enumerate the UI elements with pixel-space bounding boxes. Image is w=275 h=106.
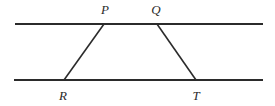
geometry-figure: P Q R T bbox=[0, 0, 275, 106]
point-label-r: R bbox=[58, 88, 67, 103]
point-label-q: Q bbox=[151, 2, 161, 17]
point-label-p: P bbox=[100, 2, 109, 17]
point-label-t: T bbox=[192, 88, 200, 103]
segment-rp bbox=[64, 24, 104, 80]
geometry-canvas: P Q R T bbox=[0, 0, 275, 106]
segment-qt bbox=[157, 24, 196, 80]
